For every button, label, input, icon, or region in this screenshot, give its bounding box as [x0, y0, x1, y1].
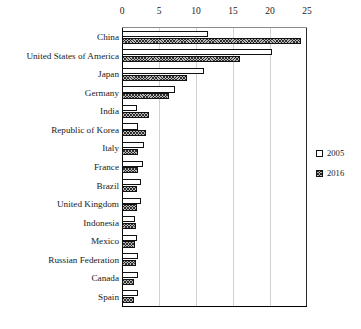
- bar-2016: [122, 130, 146, 136]
- category-label: United States of America: [1, 51, 119, 61]
- x-tick-label: 15: [228, 6, 238, 17]
- bar-2016: [122, 297, 134, 303]
- x-tick-label: 10: [191, 6, 201, 17]
- bar-2016: [122, 38, 301, 44]
- axis-line-bottom: [122, 306, 307, 307]
- bar-2005: [122, 86, 175, 92]
- category-label: Germany: [1, 88, 119, 98]
- chart-legend: 20052016: [316, 148, 344, 188]
- x-tick-label: 0: [120, 6, 125, 17]
- legend-item[interactable]: 2005: [316, 148, 344, 158]
- bar-2005: [122, 68, 204, 74]
- bar-2005: [122, 142, 144, 148]
- bar-2016: [122, 112, 149, 118]
- bar-2016: [122, 93, 169, 99]
- bar-2016: [122, 186, 137, 192]
- bar-2005: [122, 49, 272, 55]
- y-axis-category-labels: ChinaUnited States of AmericaJapanGerman…: [0, 0, 119, 329]
- bar-2016: [122, 56, 240, 62]
- bar-2016: [122, 279, 134, 285]
- bar-2016: [122, 241, 135, 247]
- category-label: Japan: [1, 69, 119, 79]
- bar-2005: [122, 272, 138, 278]
- bar-2016: [122, 223, 136, 229]
- bar-2016: [122, 75, 187, 81]
- bar-2005: [122, 216, 135, 222]
- category-label: Canada: [1, 273, 119, 283]
- bar-2016: [122, 260, 136, 266]
- x-tick-label: 25: [302, 6, 312, 17]
- bar-2005: [122, 179, 141, 185]
- category-label: Italy: [1, 143, 119, 153]
- bar-2005: [122, 253, 138, 259]
- bar-2005: [122, 123, 138, 129]
- category-label: India: [1, 106, 119, 116]
- bar-chart: 0510152025 ChinaUnited States of America…: [0, 0, 361, 329]
- category-label: China: [1, 32, 119, 42]
- category-label: United Kingdom: [1, 199, 119, 209]
- category-label: Brazil: [1, 181, 119, 191]
- category-label: Spain: [1, 292, 119, 302]
- bar-2016: [122, 167, 138, 173]
- bar-2005: [122, 235, 137, 241]
- category-label: Mexico: [1, 236, 119, 246]
- category-label: Republic of Korea: [1, 125, 119, 135]
- plot-area: [122, 28, 307, 306]
- category-label: France: [1, 162, 119, 172]
- bar-2005: [122, 31, 208, 37]
- bar-2005: [122, 105, 137, 111]
- bar-2005: [122, 290, 138, 296]
- x-tick-label: 20: [265, 6, 275, 17]
- legend-item-label: 2016: [327, 168, 344, 178]
- bar-2016: [122, 149, 138, 155]
- category-label: Russian Federation: [1, 255, 119, 265]
- bar-2005: [122, 198, 141, 204]
- legend-item[interactable]: 2016: [316, 168, 344, 178]
- category-label: Indonesia: [1, 218, 119, 228]
- bar-2016: [122, 204, 137, 210]
- hatched-square-icon: [316, 170, 323, 177]
- legend-item-label: 2005: [327, 148, 344, 158]
- empty-square-icon: [316, 150, 323, 157]
- x-tick-label: 5: [157, 6, 162, 17]
- bar-2005: [122, 161, 143, 167]
